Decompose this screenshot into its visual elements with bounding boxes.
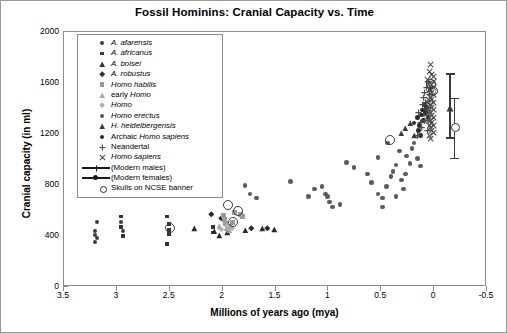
legend-item: A. robustus bbox=[81, 69, 218, 79]
legend-symbol-triangle bbox=[99, 61, 105, 67]
legend-item-label: A. boisei bbox=[111, 59, 141, 69]
legend-marker bbox=[81, 183, 111, 193]
x-axis-tick-mark bbox=[63, 286, 64, 291]
x-axis-tick-label: 2 bbox=[202, 290, 242, 300]
x-axis-tick-mark bbox=[327, 286, 328, 291]
legend-marker bbox=[81, 111, 111, 121]
x-axis-tick-label: 2.5 bbox=[149, 290, 189, 300]
y-axis-label: Cranial capacity (in ml) bbox=[21, 84, 32, 244]
legend-symbol-circle bbox=[100, 135, 104, 139]
legend-item-label: Skulls on NCSE banner bbox=[111, 183, 193, 193]
x-axis-label: Millions of years ago (mya) bbox=[63, 307, 486, 318]
x-axis-tick-mark bbox=[380, 286, 381, 291]
legend-item: Archaic Homo sapiens bbox=[81, 132, 218, 142]
legend-symbol-diamond bbox=[99, 102, 105, 108]
legend-marker bbox=[81, 142, 111, 152]
x-axis-tick-label: 0.5 bbox=[360, 290, 400, 300]
legend-symbol-diamond bbox=[99, 71, 105, 77]
x-axis-tick-label: 3 bbox=[96, 290, 136, 300]
legend-item-label: A. afarensis bbox=[111, 38, 152, 48]
x-axis-tick-mark bbox=[433, 286, 434, 291]
legend-marker bbox=[81, 69, 111, 79]
legend-symbol-square bbox=[100, 52, 104, 56]
legend-symbol-plus bbox=[99, 144, 106, 151]
legend-item: Homo bbox=[81, 100, 218, 110]
fossil-hominins-scatter-chart: Fossil Hominins: Cranial Capacity vs. Ti… bbox=[0, 0, 507, 333]
legend-symbol-triangle bbox=[99, 123, 105, 129]
legend-item-label: H. heidelbergensis bbox=[111, 121, 176, 131]
x-axis-tick-mark bbox=[275, 286, 276, 291]
legend-item-label: Homo sapiens bbox=[111, 152, 161, 162]
legend-symbol-triangle bbox=[99, 92, 105, 98]
legend-marker bbox=[81, 163, 111, 173]
legend-item: A. boisei bbox=[81, 59, 218, 69]
legend-item-label: (Modern males) bbox=[111, 163, 166, 173]
legend-symbol-open-circle bbox=[100, 186, 107, 193]
x-axis-tick-mark bbox=[116, 286, 117, 291]
legend-line-marker bbox=[93, 165, 100, 172]
legend-marker bbox=[81, 59, 111, 69]
legend-marker bbox=[81, 48, 111, 58]
y-axis-tick-label: 400 bbox=[7, 230, 59, 240]
x-axis-tick-mark bbox=[222, 286, 223, 291]
legend-item-label: Homo bbox=[111, 100, 132, 110]
y-axis-tick-label: 1200 bbox=[7, 128, 59, 138]
chart-title: Fossil Hominins: Cranial Capacity vs. Ti… bbox=[1, 6, 507, 18]
legend-symbol-cross bbox=[99, 154, 106, 161]
legend-item-label: Homo habilis bbox=[111, 80, 156, 90]
x-axis-tick-label: 0 bbox=[413, 290, 453, 300]
legend-symbol-square bbox=[100, 82, 105, 87]
legend-marker bbox=[81, 90, 111, 100]
x-axis-tick-label: 1.5 bbox=[255, 290, 295, 300]
legend-item-label: Archaic Homo sapiens bbox=[111, 132, 189, 142]
legend-symbol-circle bbox=[100, 114, 104, 118]
legend-item-label: Neandertal bbox=[111, 142, 149, 152]
legend-marker bbox=[81, 132, 111, 142]
legend-item: Homo erectus bbox=[81, 111, 218, 121]
legend-marker bbox=[81, 152, 111, 162]
x-axis-tick-label: 1 bbox=[307, 290, 347, 300]
x-axis-tick-label: 3.5 bbox=[43, 290, 83, 300]
legend-item-label: early Homo bbox=[111, 90, 151, 100]
legend-item: (Modern females) bbox=[81, 173, 218, 183]
legend-item-label: A. robustus bbox=[111, 69, 150, 79]
legend-item: Skulls on NCSE banner bbox=[81, 183, 218, 193]
legend-item: Homo sapiens bbox=[81, 152, 218, 162]
legend-item: A. africanus bbox=[81, 48, 218, 58]
legend-item-label: (Modern females) bbox=[111, 173, 172, 183]
legend-symbol-circle bbox=[100, 41, 104, 45]
legend-marker bbox=[81, 100, 111, 110]
legend-line bbox=[82, 177, 110, 179]
y-axis-tick-label: 800 bbox=[7, 179, 59, 189]
y-axis-tick-label: 1600 bbox=[7, 77, 59, 87]
legend-item: (Modern males) bbox=[81, 163, 218, 173]
y-axis-tick-label: 2000 bbox=[7, 26, 59, 36]
x-axis-tick-mark bbox=[169, 286, 170, 291]
x-axis-tick-label: -0.5 bbox=[466, 290, 506, 300]
chart-legend: A. afarensisA. africanusA. boiseiA. robu… bbox=[77, 34, 223, 198]
legend-marker bbox=[81, 80, 111, 90]
legend-item-label: A. africanus bbox=[111, 48, 152, 58]
legend-marker bbox=[81, 173, 111, 183]
legend-marker bbox=[81, 38, 111, 48]
legend-item: A. afarensis bbox=[81, 38, 218, 48]
legend-item-label: Homo erectus bbox=[111, 111, 160, 121]
legend-item: H. heidelbergensis bbox=[81, 121, 218, 131]
legend-item: early Homo bbox=[81, 90, 218, 100]
legend-item: Homo habilis bbox=[81, 80, 218, 90]
legend-marker bbox=[81, 121, 111, 131]
legend-item: Neandertal bbox=[81, 142, 218, 152]
x-axis-tick-mark bbox=[486, 286, 487, 291]
